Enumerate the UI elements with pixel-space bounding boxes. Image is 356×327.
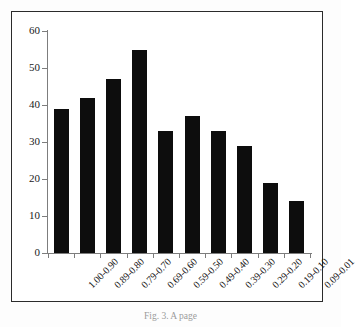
y-tick-label: 50 <box>14 61 40 73</box>
bar <box>106 79 121 253</box>
y-tick-label: 30 <box>14 135 40 147</box>
bar <box>80 98 95 253</box>
bar <box>211 131 226 253</box>
figure-caption: Fig. 3. A page <box>0 311 341 327</box>
y-tick-label: 0 <box>14 246 40 258</box>
y-tick-label: 40 <box>14 98 40 110</box>
y-tick-label: 60 <box>14 24 40 36</box>
bar <box>54 109 69 253</box>
bar <box>289 201 304 253</box>
y-tick-label: 10 <box>14 209 40 221</box>
bar <box>237 146 252 253</box>
y-tick-label: 20 <box>14 172 40 184</box>
bar <box>263 183 278 253</box>
bar <box>158 131 173 253</box>
bar <box>185 116 200 253</box>
bar-series <box>48 31 310 253</box>
x-axis-labels: 1.00-0.900.89-0.800.79-0.700.69-0.600.59… <box>48 256 318 302</box>
bar <box>132 50 147 254</box>
